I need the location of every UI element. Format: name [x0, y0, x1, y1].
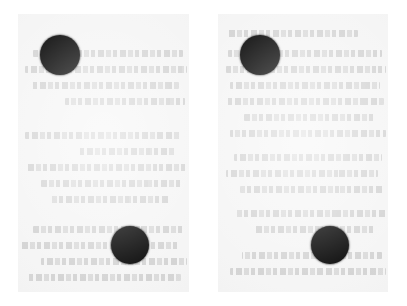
showthrough-text-line — [234, 154, 382, 161]
showthrough-text-line — [79, 148, 175, 155]
showthrough-text-line — [27, 164, 187, 171]
dot-upper-left — [40, 35, 80, 75]
showthrough-text-line — [21, 242, 179, 249]
showthrough-text-line — [254, 226, 374, 233]
showthrough-text-line — [25, 132, 181, 139]
dot-upper-left — [240, 35, 280, 75]
showthrough-text-line — [41, 258, 187, 265]
showthrough-text-line — [230, 130, 386, 137]
showthrough-text-line — [230, 82, 380, 89]
showthrough-text-line — [230, 268, 386, 275]
showthrough-text-line — [244, 114, 376, 121]
showthrough-text-line — [33, 226, 185, 233]
showthrough-text-line — [41, 180, 183, 187]
showthrough-text-line — [226, 98, 384, 105]
dot-lower-right — [111, 226, 149, 264]
showthrough-text-line — [228, 30, 358, 37]
showthrough-text-line — [31, 82, 179, 89]
dot-lower-right — [311, 226, 349, 264]
showthrough-text-line — [27, 274, 181, 281]
right-paper-panel — [218, 14, 388, 292]
showthrough-text-line — [65, 98, 185, 105]
showthrough-text-line — [240, 186, 384, 193]
scanned-image-canvas — [0, 0, 407, 306]
left-paper-panel — [18, 14, 189, 292]
showthrough-text-line — [226, 170, 378, 177]
showthrough-text-line — [236, 210, 386, 217]
showthrough-text-line — [51, 196, 169, 203]
